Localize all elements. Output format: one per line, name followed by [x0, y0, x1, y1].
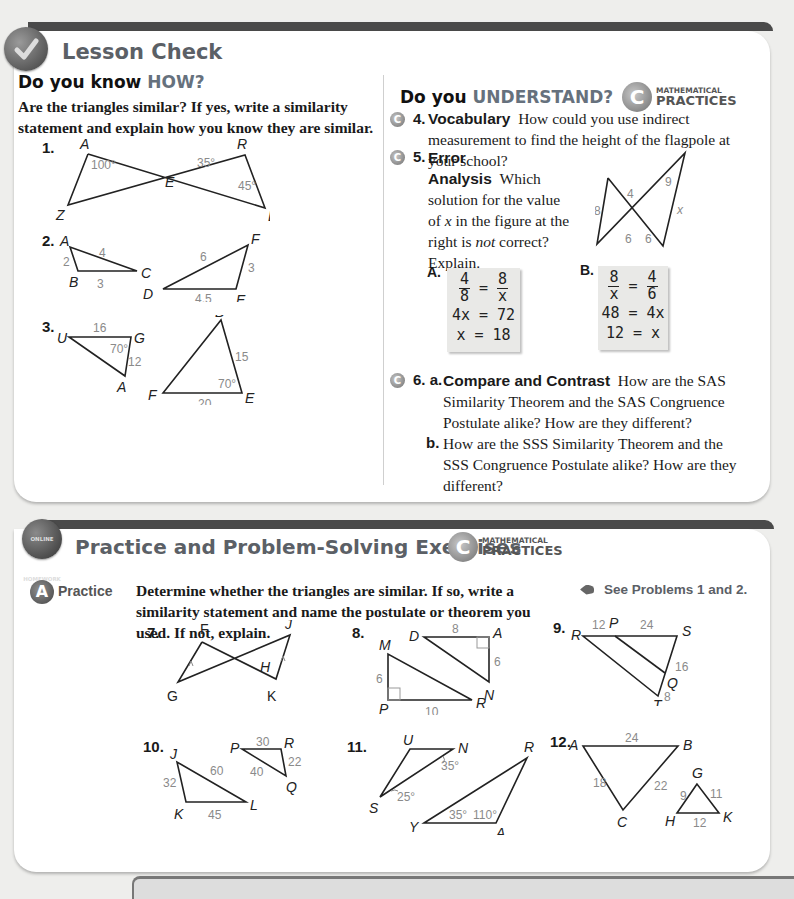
svg-text:8: 8: [452, 622, 459, 636]
understand-heading: Do you UNDERSTAND?: [400, 87, 613, 107]
svg-text:R: R: [571, 627, 581, 643]
svg-text:9: 9: [665, 175, 672, 189]
svg-text:M: M: [379, 637, 391, 653]
svg-text:25°: 25°: [397, 790, 415, 804]
svg-text:10: 10: [425, 705, 439, 715]
svg-text:30: 30: [256, 735, 270, 749]
svg-text:4: 4: [627, 187, 634, 201]
svg-text:H: H: [665, 813, 676, 829]
see-problems-link[interactable]: See Problems 1 and 2.: [580, 582, 747, 597]
svg-text:70°: 70°: [110, 342, 128, 356]
svg-text:D: D: [143, 286, 153, 302]
svg-text:T: T: [653, 697, 663, 706]
svg-text:11: 11: [710, 787, 723, 801]
svg-text:32: 32: [163, 776, 177, 790]
svg-text:2: 2: [63, 255, 70, 269]
svg-text:12: 12: [128, 355, 142, 369]
svg-text:A: A: [492, 625, 502, 641]
solution-a-card: 48 = 8x 4x = 72 x = 18: [447, 268, 520, 352]
q6-number: 6. a.: [413, 371, 442, 388]
solution-a-label: A.: [427, 264, 441, 280]
online-homework-icon: ONLINE HOMEWORK: [22, 519, 62, 559]
svg-text:K: K: [174, 806, 184, 822]
lesson-check-band: [28, 22, 773, 31]
svg-text:16: 16: [675, 660, 689, 674]
svg-text:12: 12: [693, 816, 707, 830]
svg-text:R: R: [524, 739, 534, 755]
svg-text:N: N: [458, 740, 469, 756]
problem-9-figure: RPS QT 1224168: [565, 616, 705, 706]
practice-band: [44, 520, 774, 529]
problem-11-figure: UNS 35°25° RYA 35°110°: [365, 735, 535, 835]
svg-text:B: B: [683, 737, 692, 753]
svg-text:70°: 70°: [218, 377, 236, 391]
problem-12-figure: ABC 241822 GHK 91112: [565, 730, 745, 830]
svg-text:R: R: [237, 136, 247, 152]
solution-b-label: B.: [580, 262, 594, 278]
q5-text: Error Analysis Which solution for the va…: [428, 147, 576, 273]
q5-figure: 948 x66: [595, 148, 695, 258]
svg-text:A: A: [568, 737, 578, 753]
svg-text:6: 6: [376, 672, 383, 686]
svg-text:15: 15: [235, 350, 249, 364]
svg-text:J: J: [284, 620, 293, 632]
svg-text:E: E: [245, 390, 255, 405]
how-instructions: Are the triangles similar? If yes, write…: [18, 96, 378, 138]
svg-text:R: R: [476, 695, 486, 711]
svg-text:40: 40: [250, 765, 264, 779]
svg-text:P: P: [379, 701, 389, 715]
column-divider: [383, 75, 384, 485]
bottom-bar: [132, 876, 794, 899]
svg-text:35°: 35°: [197, 156, 215, 170]
problem-3-number: 3.: [42, 318, 55, 335]
svg-text:22: 22: [654, 779, 668, 793]
svg-text:K: K: [723, 809, 733, 825]
svg-text:6: 6: [494, 655, 501, 669]
svg-text:U: U: [403, 735, 414, 748]
problem-9-number: 9.: [553, 619, 566, 636]
svg-text:100°: 100°: [91, 158, 116, 172]
problem-2-number: 2.: [42, 232, 55, 249]
math-practices-icon: C: [448, 532, 478, 562]
svg-text:45: 45: [208, 808, 222, 822]
problem-1-figure: AR EZB 100°35°45°: [50, 135, 270, 225]
how-heading: Do you know HOW?: [18, 72, 205, 92]
svg-text:4: 4: [99, 246, 106, 260]
svg-text:L: L: [250, 797, 258, 813]
svg-text:24: 24: [640, 618, 654, 632]
svg-text:18: 18: [593, 776, 607, 790]
svg-text:3: 3: [248, 261, 255, 275]
svg-text:Z: Z: [55, 207, 65, 223]
q6a-text: Compare and Contrast How are the SAS Sim…: [443, 370, 743, 433]
svg-text:K: K: [267, 688, 277, 704]
q4-number: 4.: [413, 110, 426, 127]
svg-text:J: J: [169, 746, 178, 762]
svg-text:Y: Y: [409, 819, 420, 835]
svg-text:A: A: [59, 233, 69, 249]
svg-text:Q: Q: [667, 675, 678, 691]
svg-text:G: G: [134, 330, 145, 346]
svg-text:24: 24: [625, 731, 639, 745]
svg-text:12: 12: [592, 618, 606, 632]
svg-text:3: 3: [97, 277, 104, 291]
svg-text:45°: 45°: [238, 179, 256, 193]
problem-3-figure: UGA 1670°12 BFE 1570°20: [55, 315, 275, 405]
level-a-icon: A: [30, 580, 54, 604]
svg-text:35°: 35°: [441, 759, 459, 773]
svg-text:S: S: [682, 623, 692, 639]
svg-text:A: A: [116, 379, 126, 395]
q6b-text: How are the SSS Similarity Theorem and t…: [443, 433, 743, 496]
svg-text:x: x: [676, 203, 684, 217]
svg-text:A: A: [79, 136, 89, 152]
svg-text:110°: 110°: [473, 808, 497, 822]
math-practices-icon: C: [390, 150, 405, 165]
problem-8-figure: DAN 86 MPR 610: [367, 620, 517, 715]
svg-text:20: 20: [198, 397, 212, 405]
svg-text:D: D: [409, 628, 419, 644]
svg-text:G: G: [167, 688, 178, 704]
math-practices-icon: C: [390, 373, 405, 388]
svg-text:60: 60: [210, 764, 224, 778]
svg-text:U: U: [57, 330, 68, 346]
svg-text:6: 6: [625, 232, 632, 246]
problem-10-figure: JKL 326045 PRQ 304022: [160, 735, 310, 825]
